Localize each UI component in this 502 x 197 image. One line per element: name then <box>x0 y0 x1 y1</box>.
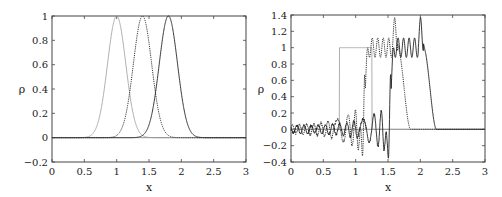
x-tick-label: 1.5 <box>141 166 157 177</box>
x-tick-label: 2.5 <box>445 166 461 177</box>
y-tick-label: 0 <box>281 124 287 135</box>
y-tick-label: 1.4 <box>271 10 287 21</box>
y-tick-label: −0.2 <box>24 157 48 168</box>
x-tick-label: 3 <box>482 166 488 177</box>
x-tick-label: 1.5 <box>380 166 396 177</box>
x-tick-label: 2 <box>417 166 423 177</box>
x-tick-label: 2 <box>178 166 184 177</box>
y-tick-label: 0.6 <box>32 59 48 70</box>
y-tick-label: 0 <box>42 132 48 143</box>
y-axis-label: ρ <box>258 83 264 96</box>
x-axis-label: x <box>146 181 153 194</box>
y-axis-label: ρ <box>19 83 25 96</box>
data-series-line <box>291 48 485 130</box>
plot-frame <box>291 15 485 162</box>
left-chart: 00.511.522.53−0.200.20.40.60.81xρ <box>19 11 249 195</box>
y-tick-label: 0.4 <box>32 84 48 95</box>
y-tick-label: 0.6 <box>271 75 287 86</box>
y-tick-label: −0.2 <box>263 140 287 151</box>
y-tick-label: 0.8 <box>271 59 287 70</box>
figure: 00.511.522.53−0.200.20.40.60.81xρ 00.511… <box>0 0 502 197</box>
data-series-line <box>52 16 246 138</box>
x-tick-label: 0.5 <box>315 166 331 177</box>
y-tick-label: 1 <box>281 42 287 53</box>
y-tick-label: 0.2 <box>32 108 48 119</box>
x-tick-label: 0 <box>288 166 294 177</box>
x-tick-label: 2.5 <box>206 166 222 177</box>
x-tick-label: 1 <box>113 166 119 177</box>
plot-frame <box>52 16 246 162</box>
x-tick-label: 3 <box>243 166 249 177</box>
x-axis-label: x <box>385 181 392 194</box>
data-series-line <box>52 16 246 138</box>
y-tick-label: 1.2 <box>271 26 287 37</box>
x-tick-label: 0.5 <box>76 166 92 177</box>
y-tick-label: 1 <box>42 11 48 22</box>
y-tick-label: 0.2 <box>271 108 287 119</box>
x-tick-label: 0 <box>49 166 55 177</box>
x-tick-label: 1 <box>352 166 358 177</box>
y-tick-label: 0.8 <box>32 35 48 46</box>
data-series-line <box>291 17 485 158</box>
right-chart: 00.511.522.53−0.4−0.200.20.40.60.811.21.… <box>258 10 488 195</box>
data-series-line <box>52 16 246 138</box>
data-series-line <box>291 17 485 155</box>
y-tick-label: −0.4 <box>263 157 287 168</box>
y-tick-label: 0.4 <box>271 91 287 102</box>
